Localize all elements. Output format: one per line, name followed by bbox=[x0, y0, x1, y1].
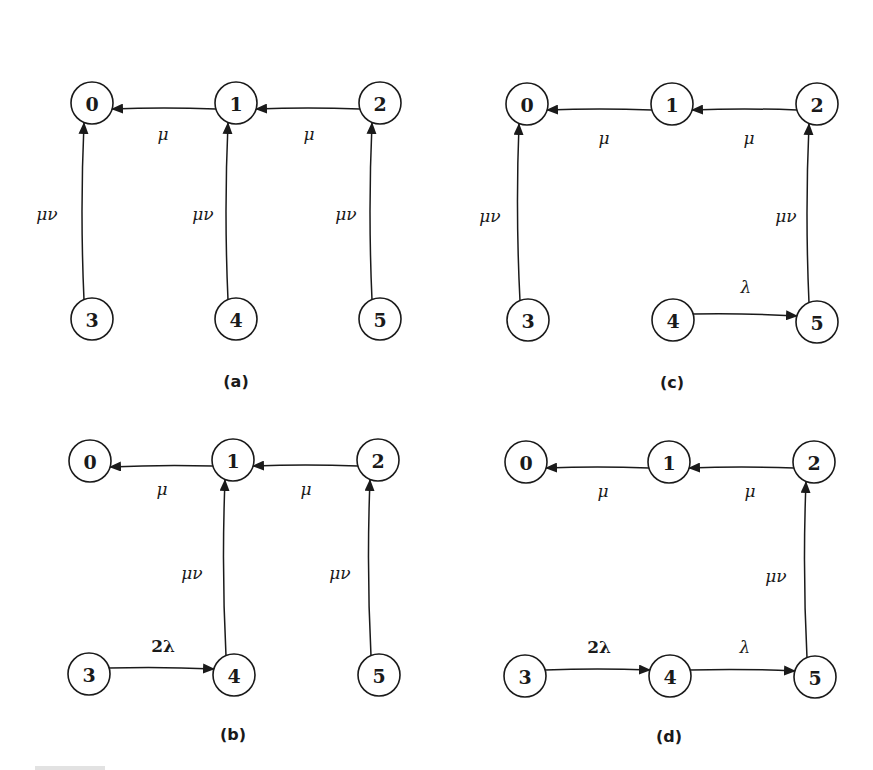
state-label: 2 bbox=[807, 452, 820, 474]
edge-rate-label: μ bbox=[300, 479, 311, 499]
edge-rate-label: μ bbox=[597, 481, 608, 501]
truncated-caption-stub bbox=[35, 766, 105, 770]
edge-rate-label: 2λ bbox=[151, 636, 175, 656]
edge-5-to-2 bbox=[804, 482, 807, 658]
state-node-1: 1 bbox=[215, 82, 257, 124]
edge-4-to-1 bbox=[226, 123, 228, 300]
state-label: 4 bbox=[666, 310, 679, 332]
edge-rate-label: μν bbox=[479, 206, 500, 226]
state-node-5: 5 bbox=[796, 301, 838, 343]
edge-rate-label: μ bbox=[156, 479, 167, 499]
edge-5-to-2 bbox=[807, 124, 809, 303]
state-label: 3 bbox=[518, 666, 531, 688]
panel-c: μμμνμνλ012345(c) bbox=[479, 83, 838, 392]
state-label: 5 bbox=[372, 665, 385, 687]
state-label: 5 bbox=[808, 667, 821, 689]
edge-rate-label: μ bbox=[744, 481, 755, 501]
panel-caption: (d) bbox=[656, 727, 682, 746]
panel-caption: (c) bbox=[660, 373, 684, 392]
state-node-0: 0 bbox=[69, 440, 111, 482]
state-node-4: 4 bbox=[213, 654, 255, 696]
edge-rate-label: μν bbox=[335, 204, 356, 224]
state-node-3: 3 bbox=[71, 298, 113, 340]
state-label: 5 bbox=[810, 312, 823, 334]
state-node-5: 5 bbox=[358, 654, 400, 696]
state-node-2: 2 bbox=[359, 82, 401, 124]
state-label: 0 bbox=[85, 93, 98, 115]
edge-rate-label: μ bbox=[303, 124, 314, 144]
edge-2-to-1 bbox=[692, 109, 797, 110]
edge-4-to-5 bbox=[690, 669, 795, 671]
state-label: 2 bbox=[810, 94, 823, 116]
state-node-4: 4 bbox=[652, 299, 694, 341]
state-node-1: 1 bbox=[648, 441, 690, 483]
state-label: 1 bbox=[229, 93, 242, 115]
state-node-0: 0 bbox=[71, 82, 113, 124]
state-node-3: 3 bbox=[507, 299, 549, 341]
state-node-3: 3 bbox=[504, 655, 546, 697]
state-label: 3 bbox=[85, 309, 98, 331]
edge-2-to-1 bbox=[256, 108, 360, 109]
edge-rate-label: μν bbox=[181, 563, 202, 583]
edge-4-to-5 bbox=[693, 314, 797, 316]
edge-rate-label: μν bbox=[329, 563, 350, 583]
edge-2-to-1 bbox=[253, 465, 358, 466]
edge-3-to-0 bbox=[517, 124, 520, 301]
state-label: 5 bbox=[373, 309, 386, 331]
state-node-1: 1 bbox=[212, 439, 254, 481]
edge-3-to-4 bbox=[545, 669, 650, 670]
state-node-4: 4 bbox=[215, 298, 257, 340]
panel-a: μμμνμνμν012345(a) bbox=[36, 82, 401, 391]
state-label: 0 bbox=[519, 452, 532, 474]
edge-3-to-0 bbox=[82, 123, 84, 300]
edge-rate-label: μν bbox=[775, 206, 796, 226]
edge-4-to-1 bbox=[223, 480, 226, 656]
state-node-2: 2 bbox=[793, 441, 835, 483]
edge-1-to-0 bbox=[112, 108, 216, 109]
edge-rate-label: μν bbox=[765, 566, 786, 586]
state-label: 2 bbox=[371, 450, 384, 472]
edge-rate-label: λ bbox=[740, 277, 752, 297]
edge-rate-label: μν bbox=[192, 204, 213, 224]
panel-caption: (b) bbox=[220, 725, 246, 744]
panel-b: μμμνμν2λ012345(b) bbox=[68, 439, 400, 744]
state-node-0: 0 bbox=[505, 441, 547, 483]
state-transition-figure: μμμνμνμν012345(a)μμμνμνλ012345(c)μμμνμν2… bbox=[0, 0, 873, 770]
state-node-2: 2 bbox=[796, 83, 838, 125]
state-label: 2 bbox=[373, 93, 386, 115]
edge-5-to-2 bbox=[370, 123, 372, 300]
edge-2-to-1 bbox=[689, 467, 794, 468]
edge-rate-label: μ bbox=[598, 128, 609, 148]
edge-rate-label: λ bbox=[739, 637, 751, 657]
edge-1-to-0 bbox=[547, 109, 652, 110]
edge-rate-label: μ bbox=[157, 124, 168, 144]
state-node-3: 3 bbox=[68, 653, 110, 695]
state-node-2: 2 bbox=[357, 439, 399, 481]
edge-1-to-0 bbox=[546, 467, 649, 468]
state-label: 0 bbox=[83, 451, 96, 473]
state-label: 1 bbox=[662, 452, 675, 474]
edge-rate-label: μ bbox=[743, 128, 754, 148]
state-node-5: 5 bbox=[794, 656, 836, 698]
state-label: 3 bbox=[82, 664, 95, 686]
state-node-0: 0 bbox=[506, 83, 548, 125]
state-label: 3 bbox=[521, 310, 534, 332]
state-label: 1 bbox=[226, 450, 239, 472]
state-node-4: 4 bbox=[649, 655, 691, 697]
state-label: 0 bbox=[520, 94, 533, 116]
edge-rate-label: μν bbox=[36, 204, 57, 224]
panel-d: μμμν2λλ012345(d) bbox=[504, 441, 836, 746]
edge-rate-label: 2λ bbox=[587, 637, 611, 657]
edge-5-to-2 bbox=[368, 480, 371, 656]
state-label: 4 bbox=[227, 665, 240, 687]
panel-caption: (a) bbox=[223, 372, 248, 391]
state-node-1: 1 bbox=[651, 83, 693, 125]
edge-3-to-4 bbox=[109, 667, 214, 669]
state-node-5: 5 bbox=[359, 298, 401, 340]
state-label: 1 bbox=[665, 94, 678, 116]
state-label: 4 bbox=[663, 666, 676, 688]
edge-1-to-0 bbox=[110, 465, 213, 467]
state-label: 4 bbox=[229, 309, 242, 331]
